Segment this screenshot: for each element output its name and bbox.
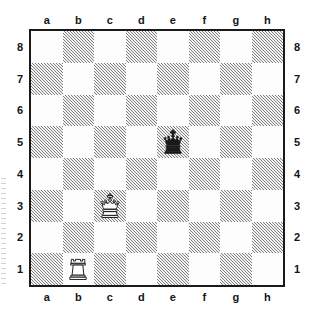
board-square-e1[interactable] <box>157 253 189 285</box>
file-label-h-bottom: h <box>252 290 284 304</box>
board-square-g3[interactable] <box>220 190 252 222</box>
board-square-a3[interactable] <box>31 190 63 222</box>
rank-label-3-right: 3 <box>288 190 306 222</box>
board-square-b6[interactable] <box>63 95 95 127</box>
board-square-g8[interactable] <box>220 31 252 63</box>
board-square-e7[interactable] <box>157 63 189 95</box>
board-square-c2[interactable] <box>94 222 126 254</box>
rank-label-3-left: 3 <box>11 190 29 222</box>
rank-label-1-right: 1 <box>288 253 306 285</box>
board-square-c3[interactable] <box>94 190 126 222</box>
board-square-e5[interactable] <box>157 126 189 158</box>
white-rook-icon <box>65 256 91 282</box>
file-label-h-top: h <box>252 13 284 27</box>
file-label-a-bottom: a <box>31 290 63 304</box>
board-square-f4[interactable] <box>189 158 221 190</box>
board-square-e6[interactable] <box>157 95 189 127</box>
board-square-b1[interactable] <box>63 253 95 285</box>
board-square-d7[interactable] <box>126 63 158 95</box>
board-square-h8[interactable] <box>252 31 284 63</box>
file-label-f-top: f <box>189 13 221 27</box>
board-square-e3[interactable] <box>157 190 189 222</box>
board-square-h1[interactable] <box>252 253 284 285</box>
board-square-d3[interactable] <box>126 190 158 222</box>
board-square-d6[interactable] <box>126 95 158 127</box>
file-label-c-top: c <box>94 13 126 27</box>
board-square-a7[interactable] <box>31 63 63 95</box>
file-labels-top: a b c d e f g h <box>31 13 283 27</box>
rank-label-4-left: 4 <box>11 158 29 190</box>
file-label-b-top: b <box>63 13 95 27</box>
rank-label-2-left: 2 <box>11 222 29 254</box>
board-square-d4[interactable] <box>126 158 158 190</box>
board-square-g7[interactable] <box>220 63 252 95</box>
file-label-e-bottom: e <box>157 290 189 304</box>
board-square-f5[interactable] <box>189 126 221 158</box>
board-square-b7[interactable] <box>63 63 95 95</box>
board-square-e2[interactable] <box>157 222 189 254</box>
board-square-a6[interactable] <box>31 95 63 127</box>
board-square-b2[interactable] <box>63 222 95 254</box>
board-square-g6[interactable] <box>220 95 252 127</box>
board-square-f7[interactable] <box>189 63 221 95</box>
board-square-a1[interactable] <box>31 253 63 285</box>
board-square-f8[interactable] <box>189 31 221 63</box>
file-label-a-top: a <box>31 13 63 27</box>
board-square-e8[interactable] <box>157 31 189 63</box>
board-square-g2[interactable] <box>220 222 252 254</box>
board-square-c4[interactable] <box>94 158 126 190</box>
file-label-b-bottom: b <box>63 290 95 304</box>
board-square-d1[interactable] <box>126 253 158 285</box>
board-square-b3[interactable] <box>63 190 95 222</box>
board-square-h2[interactable] <box>252 222 284 254</box>
rank-label-6-left: 6 <box>11 95 29 127</box>
chess-board-grid[interactable] <box>31 31 283 285</box>
rank-labels-right: 8 7 6 5 4 3 2 1 <box>288 31 306 285</box>
board-square-b8[interactable] <box>63 31 95 63</box>
rank-label-5-left: 5 <box>11 126 29 158</box>
board-square-a5[interactable] <box>31 126 63 158</box>
board-square-a4[interactable] <box>31 158 63 190</box>
board-square-g5[interactable] <box>220 126 252 158</box>
scan-artifact <box>1 176 6 284</box>
board-square-d5[interactable] <box>126 126 158 158</box>
rank-label-2-right: 2 <box>288 222 306 254</box>
board-square-c1[interactable] <box>94 253 126 285</box>
rank-label-7-right: 7 <box>288 63 306 95</box>
file-label-f-bottom: f <box>189 290 221 304</box>
board-square-g1[interactable] <box>220 253 252 285</box>
file-label-e-top: e <box>157 13 189 27</box>
board-square-d8[interactable] <box>126 31 158 63</box>
board-square-b4[interactable] <box>63 158 95 190</box>
rank-label-5-right: 5 <box>288 126 306 158</box>
board-square-f2[interactable] <box>189 222 221 254</box>
board-square-h7[interactable] <box>252 63 284 95</box>
white-king-icon <box>97 193 123 219</box>
file-label-g-top: g <box>220 13 252 27</box>
rank-label-6-right: 6 <box>288 95 306 127</box>
rank-label-1-left: 1 <box>11 253 29 285</box>
board-square-h3[interactable] <box>252 190 284 222</box>
board-square-h5[interactable] <box>252 126 284 158</box>
board-square-a2[interactable] <box>31 222 63 254</box>
board-square-c8[interactable] <box>94 31 126 63</box>
board-square-h4[interactable] <box>252 158 284 190</box>
board-square-c6[interactable] <box>94 95 126 127</box>
board-square-f3[interactable] <box>189 190 221 222</box>
rank-label-8-right: 8 <box>288 31 306 63</box>
file-label-d-top: d <box>126 13 158 27</box>
board-square-e4[interactable] <box>157 158 189 190</box>
board-square-f1[interactable] <box>189 253 221 285</box>
file-label-d-bottom: d <box>126 290 158 304</box>
board-square-f6[interactable] <box>189 95 221 127</box>
board-square-b5[interactable] <box>63 126 95 158</box>
board-square-a8[interactable] <box>31 31 63 63</box>
board-square-h6[interactable] <box>252 95 284 127</box>
file-label-g-bottom: g <box>220 290 252 304</box>
file-label-c-bottom: c <box>94 290 126 304</box>
board-square-d2[interactable] <box>126 222 158 254</box>
rank-labels-left: 8 7 6 5 4 3 2 1 <box>11 31 29 285</box>
board-square-c5[interactable] <box>94 126 126 158</box>
board-square-g4[interactable] <box>220 158 252 190</box>
board-square-c7[interactable] <box>94 63 126 95</box>
